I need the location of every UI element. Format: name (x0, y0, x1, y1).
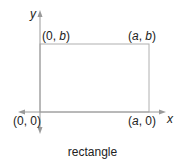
y-axis-arrow-down-icon (38, 127, 43, 134)
vertex-label-top-right: (a, b) (128, 30, 156, 42)
x-axis-arrow-right-icon (159, 110, 166, 115)
y-axis-arrow-up-icon (38, 10, 43, 17)
diagram-canvas (0, 0, 185, 163)
x-axis-label: x (167, 113, 173, 125)
vertex-label-bottom-right: (a, 0) (128, 115, 156, 127)
vertex-label-origin: (0, 0) (13, 115, 41, 127)
diagram-caption: rectangle (0, 145, 185, 159)
y-axis-label: y (30, 8, 36, 20)
vertex-label-top-left: (0, b) (42, 30, 70, 42)
rectangle-shape (40, 44, 149, 112)
